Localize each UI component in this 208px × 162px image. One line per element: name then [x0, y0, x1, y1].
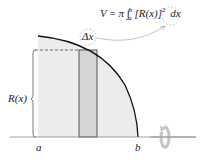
rotation-arrow-icon	[150, 125, 196, 147]
formula-upper-limit: b	[129, 6, 133, 14]
formula-integrand: [R(x)]	[134, 7, 162, 19]
a-label: a	[36, 142, 42, 153]
formula-power: 2	[162, 6, 166, 14]
representative-strip	[79, 50, 97, 137]
volume-formula: V = π ∫ba [R(x)]2 dx	[100, 7, 181, 22]
formula-lhs: V	[100, 7, 107, 19]
radius-bracket	[31, 50, 36, 137]
b-label: b	[135, 142, 141, 153]
connector-arrow	[97, 26, 165, 40]
disk-method-diagram	[0, 0, 208, 162]
formula-pi: π	[118, 7, 124, 19]
delta-x-label: Δx	[82, 31, 93, 42]
radius-label: R(x)	[8, 93, 27, 104]
formula-equals: =	[109, 7, 115, 19]
formula-differential: dx	[170, 7, 180, 19]
formula-lower-limit: a	[128, 14, 132, 22]
